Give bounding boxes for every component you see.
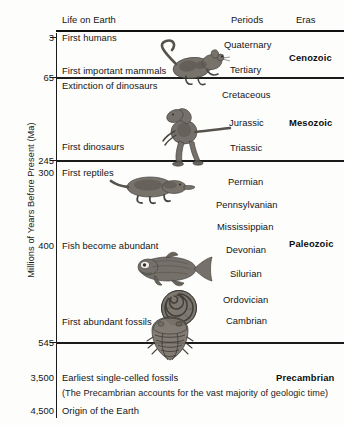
life-event-first-reptiles: First reptiles (62, 167, 114, 178)
era-cenozoic: Cenozoic (289, 52, 332, 63)
life-event-origin-of-the-earth: Origin of the Earth (62, 405, 139, 416)
column-header-life-on-earth: Life on Earth (62, 14, 116, 25)
period-devonian: Devonian (226, 244, 266, 255)
era-mesozoic: Mesozoic (289, 117, 332, 128)
period-pennsylvanian: Pennsylvanian (216, 199, 278, 210)
axis-label-300: 300 (8, 167, 54, 178)
column-header-periods: Periods (231, 14, 263, 25)
axis-label-245: 245 (8, 155, 54, 166)
life-event-extinction-of-dinosaurs: Extinction of dinosaurs (62, 80, 157, 91)
axis-label-400: 400 (8, 240, 54, 251)
period-jurassic: Jurassic (229, 117, 264, 128)
reptile-illustration (110, 170, 196, 206)
axis-label-65: 65 (8, 72, 54, 83)
period-cretaceous: Cretaceous (222, 89, 270, 100)
mammal-rodent-illustration (152, 36, 232, 92)
period-tertiary: Tertiary (230, 64, 261, 75)
era-paleozoic: Paleozoic (289, 238, 334, 249)
period-permian: Permian (228, 176, 263, 187)
axis-label-4500: 4,500 (8, 405, 54, 416)
life-event-fish-become-abundant: Fish become abundant (62, 240, 158, 251)
period-mississippian: Mississippian (217, 221, 273, 232)
axis-label-3500: 3,500 (8, 372, 54, 383)
era-boundary-545-ma (56, 342, 344, 344)
period-quaternary: Quaternary (224, 39, 271, 50)
period-silurian: Silurian (230, 268, 262, 279)
life-event-first-dinosaurs: First dinosaurs (62, 141, 124, 152)
y-axis-line (56, 33, 57, 418)
life-event-first-important-mammals: First important mammals (62, 65, 166, 76)
period-ordovician: Ordovician (223, 294, 268, 305)
era-precambrian: Precambrian (276, 372, 334, 383)
period-cambrian: Cambrian (226, 315, 267, 326)
life-event-earliest-single-celled-fossils: Earliest single-celled fossils (62, 372, 178, 383)
axis-label-3: 3 (8, 32, 54, 43)
period-triassic: Triassic (230, 142, 262, 153)
geologic-time-scale-chart: Millions of Years Before Present (Ma) 3 … (0, 0, 344, 425)
y-axis-title: Millions of Years Before Present (Ma) (26, 90, 36, 310)
precambrian-note: (The Precambrian accounts for the vast m… (62, 388, 328, 398)
axis-label-545: 545 (8, 337, 54, 348)
dinosaur-illustration (148, 105, 232, 167)
fish-coelacanth-illustration (132, 248, 214, 290)
life-event-first-humans: First humans (62, 32, 117, 43)
life-event-first-abundant-fossils: First abundant fossils (62, 316, 152, 327)
column-header-eras: Eras (296, 14, 315, 25)
